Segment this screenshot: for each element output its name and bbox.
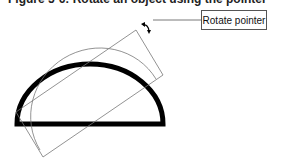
rotate-pointer-icon (141, 22, 151, 34)
rotate-pointer-callout: Rotate pointer (201, 10, 267, 30)
rotated-bounding-box (16, 30, 163, 157)
half-circle-shape[interactable] (17, 64, 163, 124)
